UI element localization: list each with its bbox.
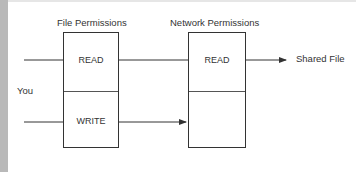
file-permissions-box: READ WRITE — [63, 32, 119, 148]
network-permissions-title: Network Permissions — [170, 17, 259, 28]
cell-divider — [189, 91, 245, 92]
cell-divider — [64, 91, 118, 92]
file-permissions-title: File Permissions — [57, 17, 127, 28]
network-permissions-box: READ — [188, 32, 246, 148]
file-read-cell: READ — [64, 55, 118, 65]
file-write-cell: WRITE — [64, 116, 118, 126]
source-label: You — [17, 85, 33, 96]
network-read-cell: READ — [189, 55, 245, 65]
target-label: Shared File — [296, 53, 345, 64]
